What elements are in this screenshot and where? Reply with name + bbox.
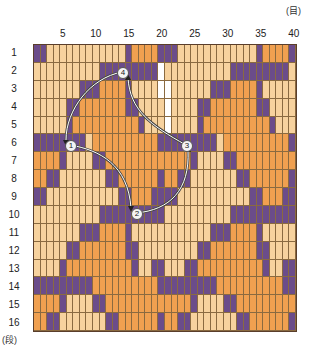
step-marker-2: 2: [131, 208, 143, 220]
path-overlay: [0, 0, 317, 360]
step-marker-3: 3: [181, 140, 193, 152]
step-marker-1: 1: [65, 140, 77, 152]
step-marker-4: 4: [117, 67, 129, 79]
